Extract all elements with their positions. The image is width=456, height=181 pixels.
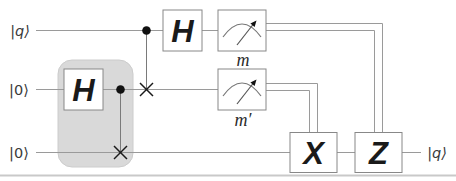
measurement-result-label: m′	[235, 110, 253, 130]
x-gate: X	[290, 133, 337, 173]
hadamard-gate-top: H	[163, 10, 202, 51]
hadamard-gate-prep: H	[64, 69, 103, 110]
ket-input-top: |q⟩	[10, 23, 30, 40]
ket-input-bottom: |0⟩	[9, 145, 29, 162]
cnot-entangle	[140, 26, 153, 96]
gate-label: X	[301, 136, 326, 171]
gate-label: Z	[368, 136, 389, 171]
classical-wire-mprime-to-x	[266, 84, 318, 133]
gate-label: H	[72, 73, 95, 108]
measurement-box	[218, 10, 266, 51]
circuit-canvas: H H m m′	[0, 0, 456, 181]
ket-input-middle: |0⟩	[9, 82, 29, 99]
measurement-result-label: m	[237, 50, 250, 70]
measurement-middle: m′	[218, 69, 266, 130]
z-gate: Z	[355, 133, 402, 173]
measurement-box	[218, 69, 266, 110]
control-dot-icon	[116, 85, 125, 94]
quantum-circuit-figure: H H m m′	[0, 0, 456, 181]
classical-wire-m-to-z	[266, 24, 383, 133]
gate-label: H	[171, 14, 194, 49]
measurement-top: m	[218, 10, 266, 70]
control-dot-icon	[142, 26, 151, 35]
ket-output-bottom: |q⟩	[427, 145, 447, 162]
